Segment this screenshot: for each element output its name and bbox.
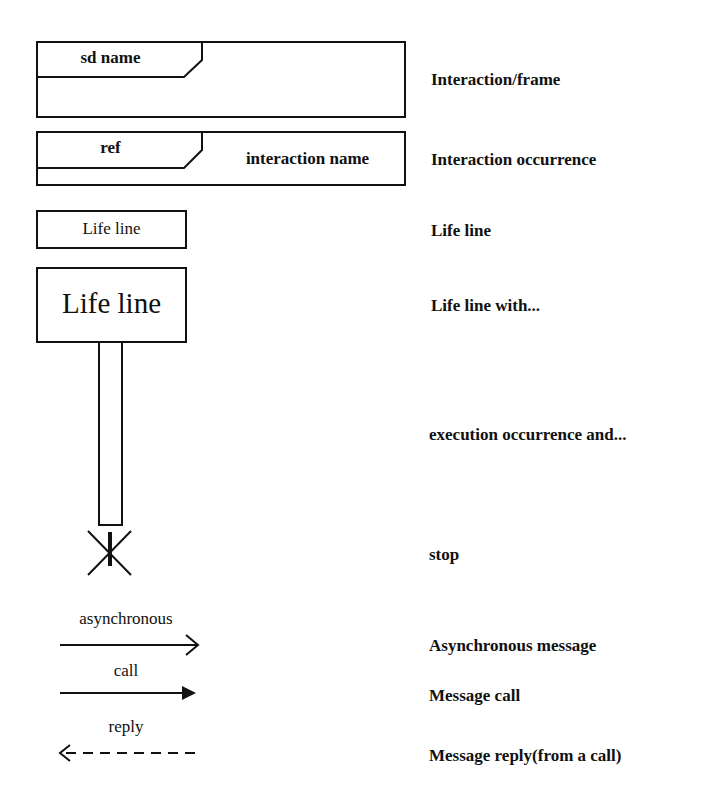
label-message-reply: Message reply(from a call): [429, 746, 621, 766]
lifeline-text: Life line: [37, 219, 186, 239]
stop-icon: [88, 531, 131, 575]
call-message-text: call: [50, 661, 202, 681]
occurrence-tab-text: ref: [37, 138, 184, 158]
lifeline-large-text: Life line: [37, 287, 186, 320]
label-lifeline: Life line: [431, 221, 491, 241]
label-interaction-occurrence: Interaction occurrence: [431, 150, 596, 170]
reply-arrow-icon: [60, 745, 198, 761]
label-lifeline-with: Life line with...: [431, 296, 540, 316]
label-execution-occurrence: execution occurrence and...: [429, 425, 627, 445]
async-message-text: asynchronous: [50, 609, 202, 629]
reply-message-text: reply: [50, 717, 202, 737]
label-stop: stop: [429, 545, 459, 565]
label-interaction-frame: Interaction/frame: [431, 70, 560, 90]
async-arrow-icon: [60, 635, 198, 655]
occurrence-name-text: interaction name: [220, 149, 395, 169]
label-async-message: Asynchronous message: [429, 636, 596, 656]
execution-occurrence-bar: [99, 342, 122, 525]
frame-tab-text: sd name: [37, 48, 184, 68]
label-message-call: Message call: [429, 686, 520, 706]
call-arrow-icon: [60, 686, 196, 700]
uml-symbols-canvas: [0, 0, 721, 805]
